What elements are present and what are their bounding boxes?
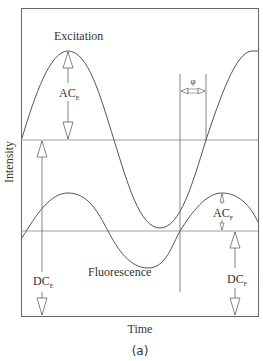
phase-label: φ	[190, 76, 195, 86]
y-axis-label: Intensity	[2, 141, 16, 183]
phase-modulation-diagram: φ ACE DCE ACF DCF Excitation Fluorescenc…	[0, 0, 263, 361]
figure-caption: (a)	[132, 344, 149, 358]
phase-arrow-icon	[181, 88, 205, 94]
excitation-label: Excitation	[54, 29, 103, 43]
fluorescence-label: Fluorescence	[88, 265, 151, 279]
x-axis-label: Time	[128, 322, 153, 336]
